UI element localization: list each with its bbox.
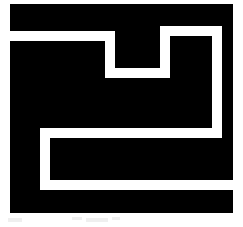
figure-canvas: Maze Path Graphic White continuous windi… [0,0,243,227]
scan-artifact-smudge [86,218,108,222]
scan-artifact-smudge [112,217,120,220]
scan-artifact-smudge [72,217,82,220]
scan-artifact-smudge [8,218,22,222]
maze-path-figure: Maze Path Graphic White continuous windi… [0,0,243,227]
